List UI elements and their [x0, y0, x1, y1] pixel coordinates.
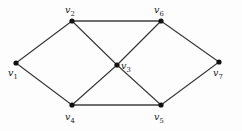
graph-vertex [114, 62, 119, 67]
graph-vertex [69, 102, 74, 107]
graph-vertex [158, 18, 163, 23]
vertex-label-v7: v7 [213, 68, 223, 81]
graph-edge [117, 21, 161, 65]
vertex-label-index: 2 [70, 10, 74, 18]
graph-edge [72, 21, 117, 65]
vertex-label-v1: v1 [8, 68, 18, 81]
vertex-label-index: 3 [126, 66, 130, 74]
graph-diagram: v1v2v3v4v5v6v7 [0, 0, 242, 131]
vertex-label-v4: v4 [65, 112, 75, 125]
vertex-group [13, 18, 221, 107]
graph-vertex [69, 18, 74, 23]
graph-edge [161, 21, 219, 62]
graph-edge [16, 63, 72, 105]
vertex-label-v6: v6 [154, 5, 164, 18]
graph-edge [161, 62, 219, 105]
graph-vertex [13, 60, 18, 65]
vertex-label-index: 6 [159, 10, 163, 18]
vertex-label-index: 7 [218, 73, 222, 81]
vertex-label-index: 1 [13, 73, 17, 81]
vertex-label-v3: v3 [121, 61, 131, 74]
vertex-label-v5: v5 [154, 112, 164, 125]
graph-edge [16, 21, 72, 63]
vertex-label-v2: v2 [65, 5, 75, 18]
vertex-label-index: 4 [70, 117, 74, 125]
graph-vertex [158, 102, 163, 107]
vertex-label-index: 5 [159, 117, 163, 125]
graph-vertex [216, 59, 221, 64]
graph-edge [72, 65, 117, 105]
